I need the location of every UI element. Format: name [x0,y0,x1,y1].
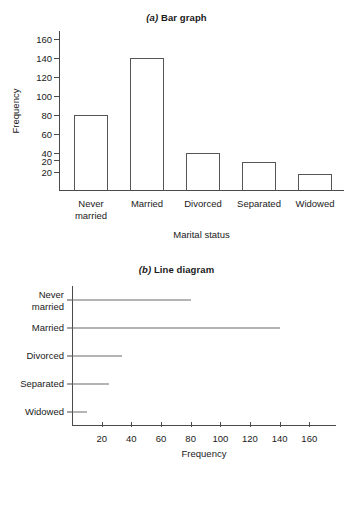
ycat-never-line2: married [32,300,64,311]
chart-b-xtick-label-160: 160 [301,433,317,444]
chart-b-xtick-label-60: 60 [156,433,167,444]
chart-b-x-axis-title: Frequency [72,448,336,459]
bar-married [130,58,164,191]
chart-a-y-axis [59,31,60,191]
ycat-divorced-line1: Divorced [27,350,65,361]
ytick-label-140: 140 [36,52,52,63]
chart-a-y-axis-title: Frequency [10,89,21,134]
line-divorced [72,356,122,357]
ytick-label-20: 20 [41,166,52,177]
chart-b-xtick-label-40: 40 [126,433,137,444]
ycat-never-line1: Never [39,289,64,300]
bar-divorced [186,153,220,191]
chart-b-xtick-label-140: 140 [272,433,288,444]
xcat-never-line2: married [75,210,107,221]
chart-b-title: (b) Line diagram [0,264,353,275]
chart-b-xtick-label-80: 80 [185,433,196,444]
line-separated [72,384,109,385]
chart-bar-graph: (a) Bar graph 20 20 40 60 [0,0,353,254]
chart-a-xcat-divorced: Divorced [184,198,222,210]
ytick-label-40: 40 [41,147,52,158]
chart-a-xcat-married: Married [131,198,163,210]
bar-never-married [74,115,108,191]
chart-a-xcat-separated: Separated [237,198,281,210]
ytick-label-120: 120 [36,71,52,82]
ycat-married-line1: Married [32,322,64,333]
xcat-separated-line1: Separated [237,198,281,209]
chart-b-ycat-divorced: Divorced [27,350,65,362]
chart-a-plot-area: 20 20 40 60 80 100 [59,31,344,191]
chart-b-title-id: (b) [139,264,151,275]
line-widowed [72,412,87,413]
xcat-never-line1: Never [78,198,103,209]
chart-line-diagram: (b) Line diagram Never married Married [0,254,353,508]
chart-a-xcat-never-married: Never married [75,198,107,221]
bar-separated [242,162,276,191]
chart-b-ycat-married: Married [32,322,64,334]
chart-b-xtick-label-120: 120 [242,433,258,444]
ytick-label-80: 80 [41,109,52,120]
ytick-label-100: 100 [36,90,52,101]
figure-marital-status-charts: (a) Bar graph 20 20 40 60 [0,0,353,508]
chart-a-title-id: (a) [146,12,158,23]
chart-b-plot-area: Never married Married Divorced Separated [72,286,336,426]
chart-b-ycat-separated: Separated [20,378,64,390]
chart-b-ycat-widowed: Widowed [25,406,64,418]
chart-b-xtick-label-20: 20 [96,433,107,444]
ycat-separated-line1: Separated [20,378,64,389]
chart-b-xtick-label-100: 100 [212,433,228,444]
line-never-married [72,300,191,301]
chart-a-title: (a) Bar graph [0,12,353,23]
line-married [72,328,280,329]
chart-a-xcat-widowed: Widowed [295,198,334,210]
chart-a-title-text: Bar graph [158,12,207,23]
xcat-married-line1: Married [131,198,163,209]
chart-b-title-text: Line diagram [151,264,214,275]
xcat-widowed-line1: Widowed [295,198,334,209]
xcat-divorced-line1: Divorced [184,198,222,209]
chart-a-x-axis-title: Marital status [59,229,344,240]
bar-widowed [298,174,332,191]
ytick-label-60: 60 [41,128,52,139]
ycat-widowed-line1: Widowed [25,406,64,417]
ytick-label-160: 160 [36,33,52,44]
chart-b-x-axis [72,425,336,426]
chart-b-ycat-never-married: Never married [32,289,64,312]
